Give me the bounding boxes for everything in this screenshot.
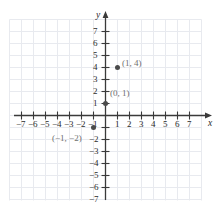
y-tick-label-7: 7 (93, 27, 98, 36)
y-tick-label-4: 4 (93, 63, 98, 72)
y-tick-label--4: −4 (89, 159, 99, 168)
x-tick-label--4: −4 (52, 120, 62, 129)
y-tick-label-6: 6 (93, 39, 98, 48)
y-axis-arrow (103, 11, 109, 18)
x-axis (14, 113, 212, 119)
y-tick-label--3: −3 (89, 147, 99, 156)
y-tick-label-2: 2 (93, 87, 98, 96)
data-point-0-1 (103, 101, 108, 106)
y-tick-label--2: −2 (89, 135, 99, 144)
data-point-label-0-1: (0, 1) (110, 89, 130, 98)
coordinate-plane-figure: −7 −6 −5 −4 −3 −2 −1 1 2 3 4 5 6 7 7 6 5… (0, 0, 221, 209)
y-tick-label-5: 5 (93, 51, 98, 60)
data-point-1-4 (115, 65, 120, 70)
data-point-label--1--2: (−1, −2) (52, 134, 82, 143)
x-tick-label--5: −5 (40, 120, 50, 129)
x-tick-label-3: 3 (139, 120, 144, 129)
y-tick-label--7: −7 (89, 195, 99, 204)
y-tick-label--5: −5 (89, 171, 99, 180)
x-tick-label-4: 4 (151, 120, 156, 129)
x-tick-label--3: −3 (64, 120, 74, 129)
x-tick-label-2: 2 (127, 120, 132, 129)
x-tick-label-7: 7 (187, 120, 192, 129)
x-tick-label-6: 6 (175, 120, 180, 129)
x-tick-label--7: −7 (16, 120, 26, 129)
x-axis-label: x (208, 119, 212, 129)
x-tick-label-1: 1 (115, 120, 120, 129)
y-tick-label-3: 3 (93, 75, 98, 84)
y-tick-label--6: −6 (89, 183, 99, 192)
data-point-label-1-4: (1, 4) (122, 59, 142, 68)
y-tick-label-1: 1 (93, 99, 98, 108)
x-tick-label--6: −6 (28, 120, 38, 129)
x-tick-label-5: 5 (163, 120, 168, 129)
y-axis-label: y (96, 11, 100, 21)
data-point--1--2 (91, 125, 96, 130)
x-tick-label--2: −2 (76, 120, 86, 129)
coordinate-plane-svg (0, 0, 221, 209)
